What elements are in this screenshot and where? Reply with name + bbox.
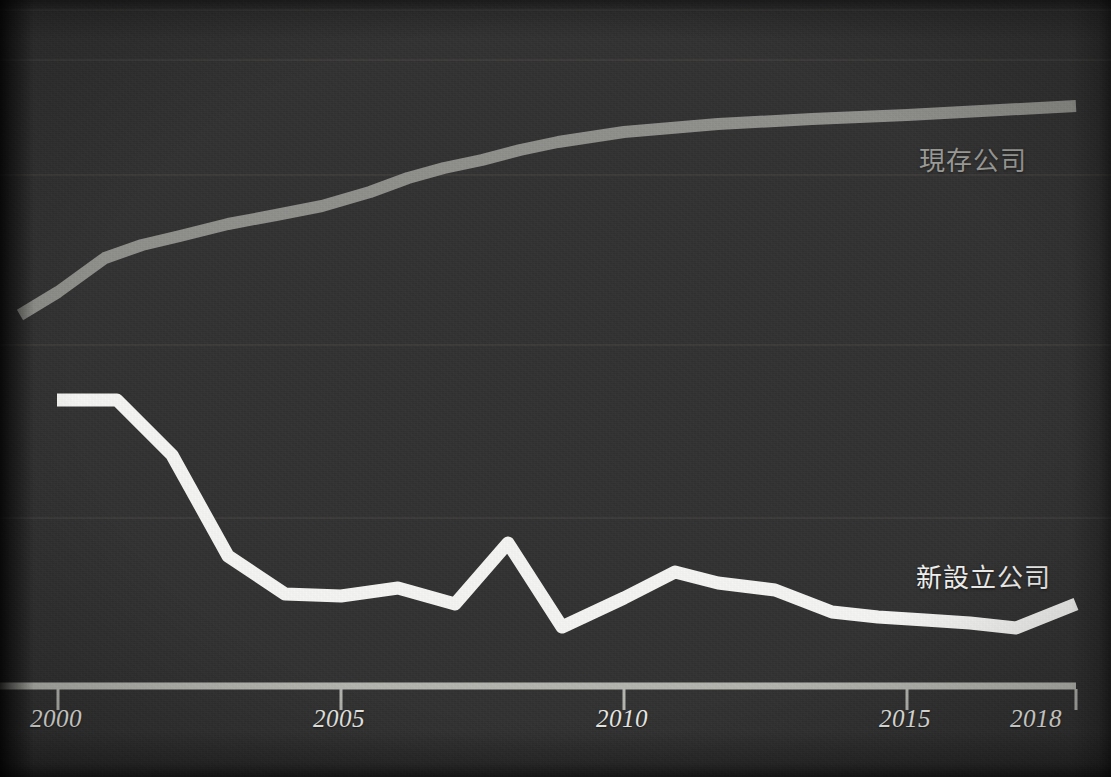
series-label-existing: 現存公司: [919, 140, 1027, 177]
series-label-newly: 新設立公司: [916, 557, 1051, 594]
series-line-existing: [20, 106, 1076, 315]
x-tick-label-2010: 2010: [596, 705, 648, 733]
x-tick-label-2000: 2000: [30, 705, 82, 733]
x-tick-label-2005: 2005: [313, 705, 365, 733]
chart-canvas: 2000 2005 2010 2015 2018 現存公司 新設立公司: [0, 0, 1111, 777]
x-tick-label-2018: 2018: [1010, 705, 1062, 733]
x-tick-label-2015: 2015: [879, 705, 931, 733]
line-chart-plot: [0, 0, 1111, 777]
